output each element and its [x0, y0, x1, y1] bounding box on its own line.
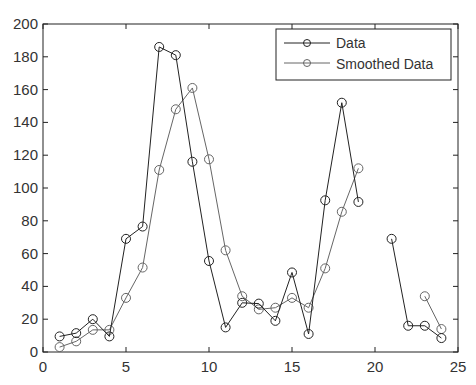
y-tick-label: 200 [13, 15, 38, 32]
legend: Data Smoothed Data [276, 29, 451, 80]
legend-label-data: Data [336, 35, 366, 51]
line-chart: 0510152025020406080100120140160180200 Da… [0, 0, 476, 385]
x-tick-label: 10 [201, 358, 218, 375]
y-tick-label: 100 [13, 179, 38, 196]
x-tick-label: 0 [39, 358, 47, 375]
x-tick-label: 5 [122, 358, 130, 375]
x-tick-label: 20 [367, 358, 384, 375]
y-tick-label: 20 [21, 310, 38, 327]
y-tick-label: 80 [21, 212, 38, 229]
y-tick-label: 0 [30, 343, 38, 360]
y-tick-label: 180 [13, 48, 38, 65]
y-tick-label: 120 [13, 146, 38, 163]
y-tick-label: 60 [21, 245, 38, 262]
y-tick-label: 40 [21, 277, 38, 294]
y-tick-label: 140 [13, 113, 38, 130]
y-tick-label: 160 [13, 81, 38, 98]
x-tick-label: 25 [450, 358, 467, 375]
x-tick-label: 15 [284, 358, 301, 375]
legend-label-smoothed: Smoothed Data [336, 56, 433, 72]
